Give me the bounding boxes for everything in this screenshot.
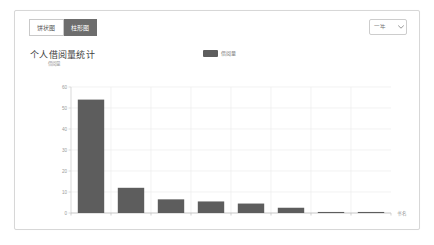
svg-text:60: 60 (62, 85, 68, 90)
chart-area: 个人借阅量统计 借阅量 借阅量 0102030405060书名 (15, 45, 419, 229)
bar-7 (358, 212, 384, 213)
chart-type-tabs[interactable]: 饼状图 柱形图 (29, 19, 97, 36)
tab-pie-chart[interactable]: 饼状图 (29, 19, 64, 36)
svg-text:20: 20 (62, 169, 68, 174)
svg-text:50: 50 (62, 106, 68, 111)
bar-chart-plot: 0102030405060书名 (15, 45, 419, 229)
svg-text:40: 40 (62, 127, 68, 132)
screenshot-root: 饼状图 柱形图 一年 个人借阅量统计 借阅量 借阅量 (0, 0, 434, 245)
bar-1 (118, 188, 144, 213)
bar-5 (278, 208, 304, 213)
tab-pie-chart-label: 饼状图 (37, 25, 56, 31)
svg-text:书名: 书名 (397, 210, 407, 217)
chevron-down-icon (396, 20, 406, 34)
bar-0 (78, 100, 104, 213)
tab-bar-chart[interactable]: 柱形图 (64, 19, 98, 36)
tab-bar-chart-label: 柱形图 (71, 25, 90, 31)
chart-card: 饼状图 柱形图 一年 个人借阅量统计 借阅量 借阅量 (14, 10, 420, 230)
bar-chart-svg: 0102030405060书名 (15, 45, 421, 231)
bar-2 (158, 199, 184, 213)
bar-6 (318, 212, 344, 213)
svg-text:30: 30 (62, 148, 68, 153)
time-range-select-value: 一年 (370, 24, 396, 30)
svg-text:10: 10 (62, 190, 68, 195)
svg-text:0: 0 (64, 211, 67, 216)
bar-4 (238, 204, 264, 213)
card-toolbar: 饼状图 柱形图 一年 (15, 11, 419, 45)
bar-3 (198, 201, 224, 213)
time-range-select[interactable]: 一年 (369, 19, 407, 35)
